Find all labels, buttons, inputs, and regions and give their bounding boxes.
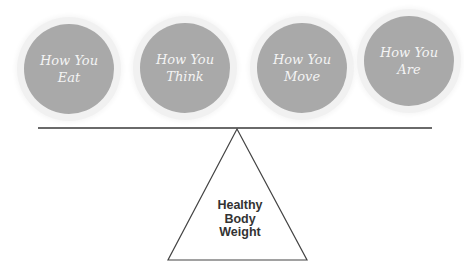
fulcrum-label-line2: Body [200, 213, 280, 227]
fulcrum-label: Healthy Body Weight [200, 199, 280, 240]
fulcrum-label-line1: Healthy [200, 199, 280, 213]
fulcrum-label-line3: Weight [200, 226, 280, 240]
